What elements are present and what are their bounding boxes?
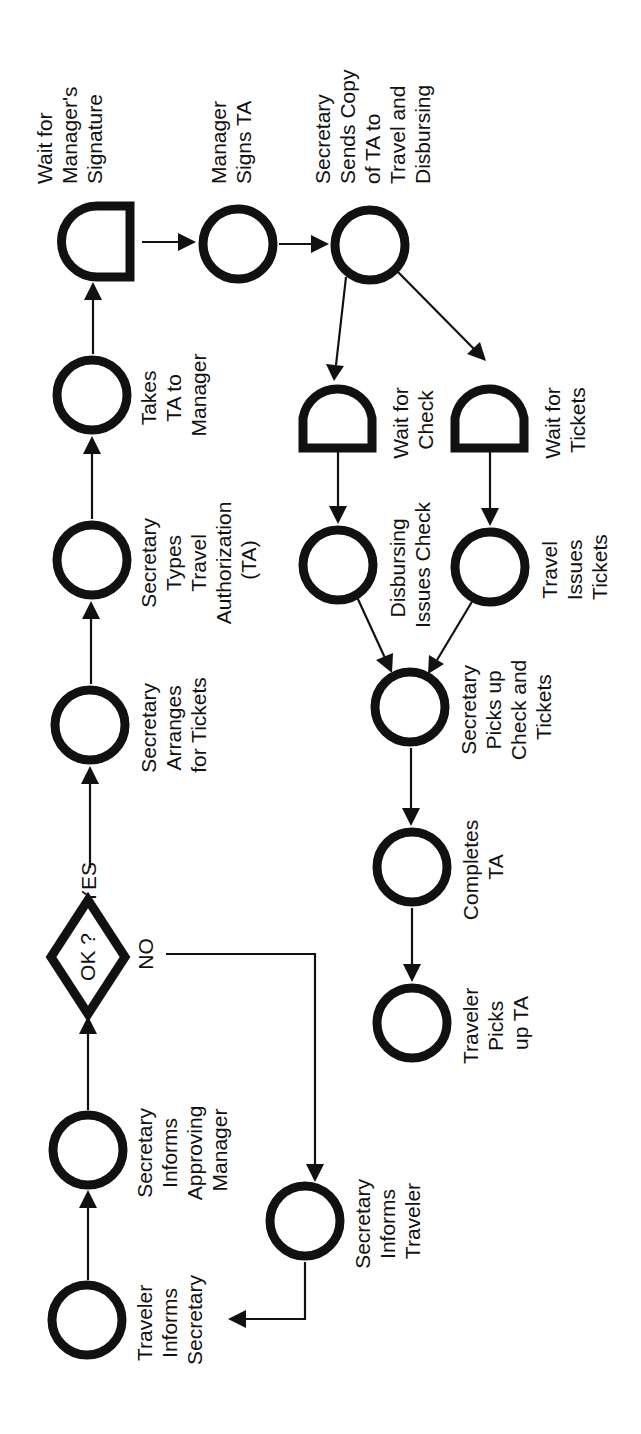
node-label: Completes TA xyxy=(459,814,507,920)
node-label: Secretary Informs Traveler xyxy=(351,1173,424,1269)
edge-wait-tickets-to-travel-issues xyxy=(481,448,499,526)
node-wait-for-manager-signature[interactable]: Wait for Manager's Signature xyxy=(33,81,130,277)
node-label: Travel Issues Tickets xyxy=(538,534,611,601)
edge-traveler-to-secretary-informs-manager xyxy=(79,1190,97,1280)
operation-circle xyxy=(455,532,525,602)
node-completes-ta[interactable]: Completes TA xyxy=(377,814,507,920)
node-label: Secretary Informs Approving Manager xyxy=(133,1100,231,1200)
edge-wait-check-to-disbursing xyxy=(329,448,347,524)
edge-takes-to-wait-signature xyxy=(84,282,102,354)
operation-circle xyxy=(377,832,447,902)
edge-decision-yes-to-arranges xyxy=(81,766,99,868)
operation-circle xyxy=(335,210,405,280)
edge-manager-signs-to-sends-copy xyxy=(279,235,329,253)
node-traveler-picks-up-ta[interactable]: Traveler Picks up TA xyxy=(377,982,532,1064)
node-label: Manager Signs TA xyxy=(207,95,255,184)
node-label: Wait for Check xyxy=(389,381,437,458)
node-secretary-picks-up-check-and-tickets[interactable]: Secretary Picks up Check and Tickets xyxy=(375,654,555,760)
operation-circle xyxy=(53,1115,123,1185)
edge-informs-traveler-to-traveler xyxy=(228,1262,305,1328)
operation-circle xyxy=(303,530,373,600)
yes-label: YES xyxy=(77,862,100,904)
edge-completes-to-traveler-picks xyxy=(403,908,421,982)
operation-circle xyxy=(52,1285,122,1355)
delay-shape xyxy=(455,389,524,448)
flowchart-canvas: Traveler Informs Secretary Secretary Inf… xyxy=(0,0,641,1434)
edge-informs-manager-to-decision xyxy=(79,1016,97,1110)
node-wait-for-check[interactable]: Wait for Check xyxy=(303,381,437,458)
node-wait-for-tickets[interactable]: Wait for Tickets xyxy=(455,381,589,458)
node-takes-ta-to-manager[interactable]: Takes TA to Manager xyxy=(57,354,210,437)
node-label: Secretary Arranges for Tickets xyxy=(137,677,210,773)
node-secretary-types-travel-authorization[interactable]: Secretary Types Travel Authorization (TA… xyxy=(57,496,260,624)
edge-arranges-to-types xyxy=(82,601,100,684)
node-secretary-informs-approving-manager[interactable]: Secretary Informs Approving Manager xyxy=(53,1100,231,1200)
operation-circle xyxy=(55,690,125,760)
edge-sends-copy-to-wait-tickets xyxy=(398,272,486,361)
node-manager-signs-ta[interactable]: Manager Signs TA xyxy=(203,95,273,279)
node-label: Traveler Informs Secretary xyxy=(133,1275,206,1365)
node-label: Disbursing Issues Check xyxy=(386,501,434,628)
decision-ok[interactable]: OK ? xyxy=(51,900,125,1014)
edge-wait-signature-to-manager-signs xyxy=(142,233,196,251)
operation-circle xyxy=(203,209,273,279)
node-secretary-sends-copy[interactable]: Secretary Sends Copy of TA to Travel and… xyxy=(311,64,434,280)
operation-circle xyxy=(57,525,127,595)
node-label: Takes TA to Manager xyxy=(137,354,210,437)
node-secretary-arranges-for-tickets[interactable]: Secretary Arranges for Tickets xyxy=(55,677,210,773)
operation-circle xyxy=(57,360,127,430)
node-label: Traveler Picks up TA xyxy=(459,982,532,1064)
node-traveler-informs-secretary[interactable]: Traveler Informs Secretary xyxy=(52,1275,206,1365)
decision-label: OK ? xyxy=(76,933,99,981)
operation-circle xyxy=(270,1186,340,1256)
node-label: Wait for Manager's Signature xyxy=(33,81,106,184)
operation-circle xyxy=(375,672,445,742)
edge-types-to-takes xyxy=(83,436,101,519)
node-label: Secretary Types Travel Authorization (TA… xyxy=(137,496,260,624)
node-secretary-informs-traveler[interactable]: Secretary Informs Traveler xyxy=(270,1173,424,1269)
node-label: Secretary Picks up Check and Tickets xyxy=(457,654,555,760)
node-label: Wait for Tickets xyxy=(541,381,589,458)
edge-sends-copy-to-wait-check xyxy=(326,277,346,381)
node-disbursing-issues-check[interactable]: Disbursing Issues Check xyxy=(303,501,434,628)
edge-picks-up-to-completes xyxy=(402,748,420,826)
delay-shape xyxy=(303,389,372,448)
no-label: NO xyxy=(134,938,157,970)
node-label: Secretary Sends Copy of TA to Travel and… xyxy=(311,64,434,184)
node-travel-issues-tickets[interactable]: Travel Issues Tickets xyxy=(455,532,611,602)
delay-shape xyxy=(62,206,131,277)
operation-circle xyxy=(377,988,447,1058)
